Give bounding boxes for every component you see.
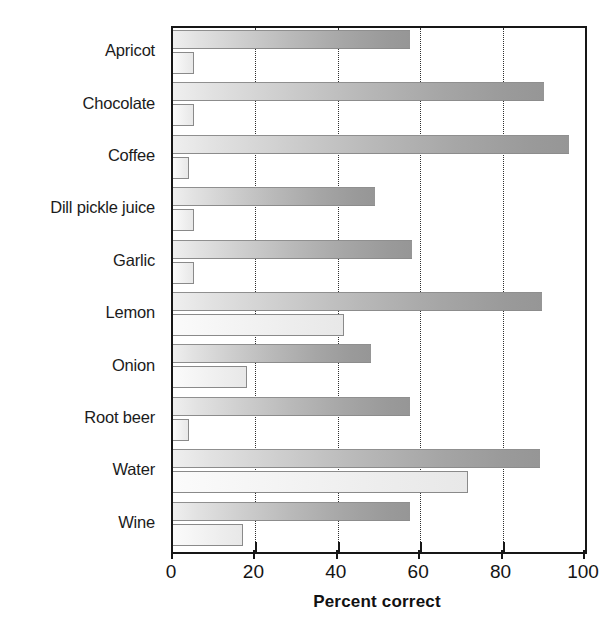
plot-inner [173, 28, 585, 552]
x-tick-mark-60 [418, 550, 420, 559]
bar-group [173, 290, 585, 342]
bar-group [173, 447, 585, 499]
bar-chocolate-series-2 [173, 104, 194, 126]
x-inner-tick-40 [338, 542, 340, 552]
y-label-wine: Wine [0, 513, 155, 532]
y-label-apricot: Apricot [0, 41, 155, 60]
bar-root-beer-series-1 [173, 397, 410, 416]
bar-onion-series-2 [173, 366, 247, 388]
y-label-water: Water [0, 460, 155, 479]
bar-chocolate-series-1 [173, 82, 544, 101]
plot-area [171, 26, 587, 554]
bar-apricot-series-1 [173, 30, 410, 49]
bar-garlic-series-1 [173, 240, 412, 259]
y-label-lemon: Lemon [0, 303, 155, 322]
bar-lemon-series-1 [173, 292, 542, 311]
y-label-root-beer: Root beer [0, 408, 155, 427]
bar-apricot-series-2 [173, 52, 194, 74]
bar-lemon-series-2 [173, 314, 344, 336]
bar-group [173, 500, 585, 552]
x-tick-mark-80 [501, 550, 503, 559]
bar-garlic-series-2 [173, 262, 194, 284]
bar-root-beer-series-2 [173, 419, 189, 441]
y-label-coffee: Coffee [0, 146, 155, 165]
bar-group [173, 342, 585, 394]
x-inner-tick-60 [420, 542, 422, 552]
x-tick-mark-0 [171, 550, 173, 559]
bar-group [173, 28, 585, 80]
bar-chart: ApricotChocolateCoffeeDill pickle juiceG… [0, 0, 613, 624]
x-tick-label-20: 20 [243, 561, 264, 583]
bar-coffee-series-1 [173, 135, 569, 154]
x-tick-label-40: 40 [325, 561, 346, 583]
x-tick-mark-40 [336, 550, 338, 559]
x-tick-label-0: 0 [166, 561, 177, 583]
y-label-onion: Onion [0, 356, 155, 375]
bar-dill-pickle-juice-series-1 [173, 187, 375, 206]
bar-wine-series-2 [173, 524, 243, 546]
x-axis-title: Percent correct [171, 592, 583, 612]
y-label-chocolate: Chocolate [0, 94, 155, 113]
bar-water-series-1 [173, 449, 540, 468]
bar-coffee-series-2 [173, 157, 189, 179]
y-label-garlic: Garlic [0, 251, 155, 270]
x-tick-mark-20 [253, 550, 255, 559]
x-tick-label-80: 80 [490, 561, 511, 583]
bar-wine-series-1 [173, 502, 410, 521]
x-inner-tick-20 [255, 542, 257, 552]
y-axis-category-labels: ApricotChocolateCoffeeDill pickle juiceG… [0, 26, 163, 550]
x-tick-label-100: 100 [567, 561, 599, 583]
bar-onion-series-1 [173, 344, 371, 363]
y-label-dill-pickle-juice: Dill pickle juice [0, 198, 155, 217]
bar-group [173, 238, 585, 290]
bar-dill-pickle-juice-series-2 [173, 209, 194, 231]
bar-group [173, 185, 585, 237]
bar-group [173, 80, 585, 132]
bar-group [173, 395, 585, 447]
bar-water-series-2 [173, 471, 468, 493]
x-tick-label-60: 60 [408, 561, 429, 583]
x-tick-mark-100 [583, 550, 585, 559]
bar-group [173, 133, 585, 185]
x-inner-tick-80 [503, 542, 505, 552]
